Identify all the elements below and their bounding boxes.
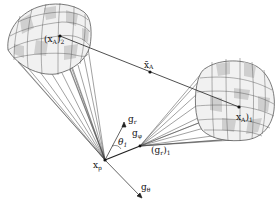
point-suspension-apex	[139, 145, 142, 148]
label-gr: gr	[128, 114, 137, 125]
point-xp	[103, 158, 106, 161]
label-xp: xp	[93, 160, 102, 172]
label-gphi: gφ	[132, 128, 142, 140]
label-gr1: (gr)1	[151, 145, 171, 156]
parachute-diagram: (xA)2 x̄A xA)1 xp gr gφ θ1 (gr)1 gθ	[0, 0, 276, 210]
left-parachute	[8, 3, 105, 160]
right-parachute	[140, 58, 274, 146]
label-theta1: θ1	[118, 137, 127, 148]
label-xAbar: x̄A	[144, 60, 154, 70]
label-gtheta: gθ	[141, 182, 151, 193]
point-xAbar	[148, 70, 151, 73]
gr-arrowhead	[122, 122, 126, 127]
point-xA1	[237, 105, 240, 108]
